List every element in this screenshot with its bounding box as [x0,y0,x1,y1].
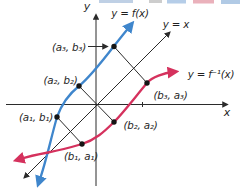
point-dot-b2a2 [111,119,116,124]
point-label-b3a3: (b₃, a₃) [153,89,187,101]
x-axis-label: x [223,106,231,119]
point-dot-a3b3 [111,44,116,49]
point-dot-b1a1 [79,141,84,146]
point-label-b1a1: (b₁, a₁) [64,150,98,162]
f-curve-label: y = f(x) [110,7,148,19]
point-label-b2a2: (b₂, a₂) [123,119,157,131]
identity-line-label: y = x [162,18,190,30]
reflection-segment-3 [114,47,147,84]
point-dot-a1b1 [54,114,59,119]
scan-artifact [99,0,240,4]
point-label-a3b3: (a₃, b₃) [52,41,86,53]
point-label-a2b2: (a₂, b₂) [43,74,77,86]
reflection-segment-1 [57,117,82,144]
f-inverse-curve-label: y = f⁻¹(x) [187,68,235,80]
point-label-a1b1: (a₁, b₁) [19,111,53,123]
y-axis-label: y [83,0,91,13]
diagram-canvas: y x y = f(x) y = x y = f⁻¹(x) (a₁, b₁) (… [0,0,243,192]
inverse-function-diagram: y x y = f(x) y = x y = f⁻¹(x) (a₁, b₁) (… [0,0,243,192]
point-dot-b3a3 [144,80,149,85]
